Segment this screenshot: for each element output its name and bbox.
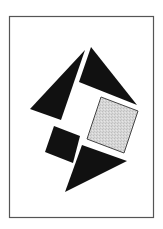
black-square-shape <box>45 126 80 163</box>
tangram-figure <box>0 0 163 229</box>
gray-square-shape <box>87 97 138 153</box>
left-triangle-shape <box>30 50 85 120</box>
right-triangle-shape <box>79 47 137 105</box>
